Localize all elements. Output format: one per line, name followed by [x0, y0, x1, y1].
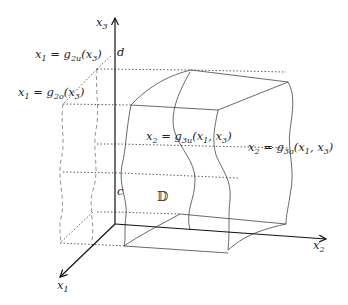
surface-label-g2o: x1 = g2o(x3) — [18, 85, 84, 101]
upper-bound-d: d — [117, 45, 124, 59]
x2-axis — [115, 224, 326, 239]
x1-axis — [60, 224, 115, 277]
surface-label-g2u: x1 = g2u(x3) — [35, 47, 102, 63]
body-edges — [121, 70, 293, 253]
surface-label-g3o: x2 = g3o(x1, x3) — [248, 140, 333, 156]
x3-axis-label: x3 — [96, 15, 108, 31]
x1-axis-label: x1 — [57, 278, 69, 294]
x2-axis-label: x2 — [313, 238, 325, 254]
surface-label-g3u: x2 = g3u(x1, x3) — [146, 129, 232, 145]
integration-domain-diagram: x3 x2 x1 d c 𝔻 x1 = g2u(x3) x1 = g2o(x3)… — [0, 0, 348, 305]
region-D-label: 𝔻 — [157, 189, 168, 204]
lower-bound-c: c — [117, 184, 124, 198]
